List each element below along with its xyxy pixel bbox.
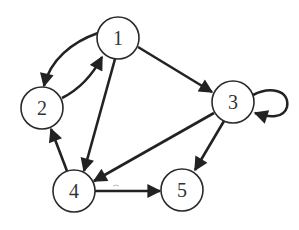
- node-2-label: 2: [37, 97, 47, 119]
- edge-2-to-1: [62, 57, 102, 98]
- node-1-label: 1: [113, 27, 123, 49]
- edge-3-to-4: [94, 113, 214, 181]
- node-2: 2: [21, 87, 63, 129]
- edge-3-to-3: [253, 90, 287, 116]
- edge-1-to-2: [44, 33, 98, 86]
- node-4: 4: [53, 170, 95, 212]
- node-1: 1: [97, 17, 139, 59]
- stray-mark: [113, 185, 119, 186]
- node-4-label: 4: [69, 180, 79, 202]
- node-3-label: 3: [228, 91, 238, 113]
- edge-4-to-2: [51, 129, 67, 171]
- graph-canvas: 1 2 3 4 5: [0, 0, 299, 230]
- edge-3-to-5: [195, 121, 224, 170]
- node-5-label: 5: [177, 179, 187, 201]
- node-3: 3: [212, 81, 254, 123]
- edge-1-to-3: [138, 47, 212, 92]
- node-5: 5: [161, 169, 203, 211]
